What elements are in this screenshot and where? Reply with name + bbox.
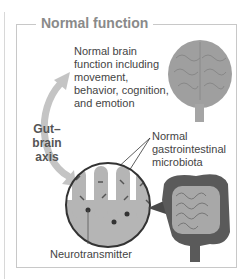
microbiota-caption: Normal gastrointestinal microbiota [152,130,242,169]
villi-magnifier-icon [60,163,160,260]
figure-title: Normal function [36,14,153,32]
brain-icon [168,40,232,122]
axis-label-line1: Gut–brain [22,122,72,150]
axis-label-line2: axis [22,150,72,164]
intestines-icon [162,174,230,262]
gut-brain-axis-label: Gut–brain axis [22,122,72,164]
brain-function-caption: Normal brain function including movement… [74,45,174,110]
neurotransmitter-label: Neurotransmitter [50,248,132,261]
